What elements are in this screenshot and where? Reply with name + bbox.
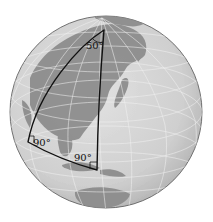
right-angle-label: 90° <box>74 152 92 163</box>
globe-diagram: 50° 90° 90° <box>0 0 213 222</box>
apex-angle-label: 50° <box>86 40 104 51</box>
left-angle-label: 90° <box>33 137 51 148</box>
